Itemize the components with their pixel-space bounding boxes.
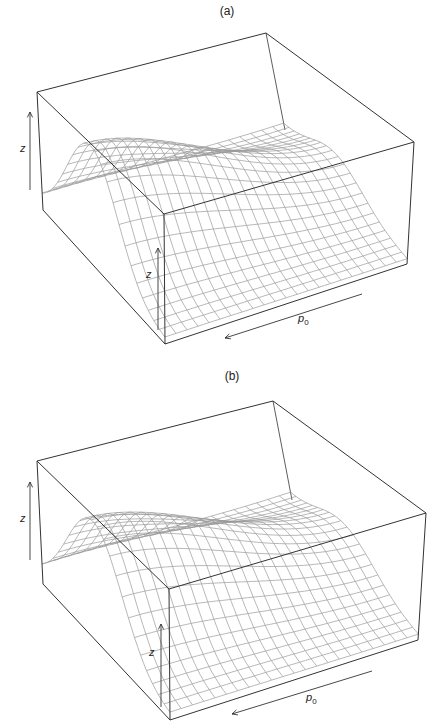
mesh-line [116, 554, 366, 576]
box-edge [37, 461, 43, 584]
mesh-line [166, 519, 294, 673]
p0-axis-arrow-head [232, 714, 238, 715]
mesh-line [76, 513, 204, 702]
mesh-line [143, 516, 271, 680]
mesh-line [211, 516, 339, 659]
surface-plot [0, 0, 435, 728]
z-axis-label-inner: z [149, 646, 155, 658]
mesh-line [170, 634, 419, 712]
mesh-line [200, 519, 328, 662]
z-axis-label-outer: z [20, 512, 26, 524]
box-edge [418, 513, 426, 640]
box-edge [170, 640, 418, 720]
mesh-line [189, 521, 317, 666]
mesh-line [53, 515, 181, 708]
box-edge [273, 401, 292, 500]
mesh-line [155, 518, 283, 677]
mesh-line [42, 518, 170, 712]
mesh-line [177, 520, 305, 670]
box-edge [37, 401, 273, 461]
box-edge [169, 589, 170, 720]
box-edge [37, 461, 169, 589]
panel-b: (b) z z p0 [0, 0, 435, 728]
p0-axis-label: p0 [306, 691, 317, 706]
